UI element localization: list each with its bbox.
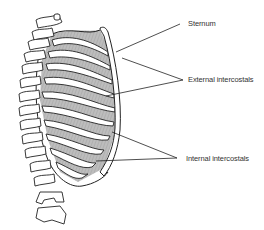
external-intercostals-leader-upper [122,58,183,80]
label-sternum: Sternum [188,19,216,28]
label-external-intercostals: External intercostals [188,75,253,84]
rib-cage-diagram: Sternum External intercostals Internal i… [0,0,264,230]
label-internal-intercostals: Internal intercostals [186,154,249,163]
rib-cage-illustration [0,0,264,230]
internal-intercostals-leader-upper [112,132,177,158]
sternum-leader [116,24,180,52]
